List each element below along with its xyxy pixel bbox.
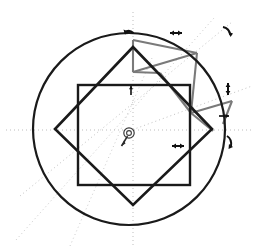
drawing-canvas[interactable] — [0, 0, 256, 250]
arrow-left-head-icon — [170, 31, 174, 36]
arrow-up-head-icon — [226, 83, 231, 87]
gray-segment-top-span[interactable] — [133, 40, 197, 53]
rotate-cw-arrowhead-icon — [229, 32, 234, 37]
arrow-up-head-small-icon — [129, 86, 133, 89]
gray-segment-fan-b[interactable] — [191, 53, 197, 113]
rotation-handle-right-bottom[interactable] — [227, 136, 233, 149]
anchor-inner-dot — [127, 131, 132, 136]
rotation-handle-upper-right[interactable] — [223, 27, 233, 37]
arrow-right-head-mid-icon — [180, 144, 184, 149]
center-anchor-point[interactable] — [122, 128, 135, 146]
diagonal-guide-ne — [20, 22, 232, 196]
arrow-down-head-icon — [226, 91, 231, 95]
arrow-right-head-icon — [178, 31, 182, 36]
resize-handle-right-top[interactable] — [226, 83, 231, 95]
gray-segment-fan-d[interactable] — [191, 101, 232, 113]
move-handle-top-right[interactable] — [170, 31, 182, 36]
move-handle-center-right[interactable] — [172, 144, 184, 149]
vector-artboard[interactable] — [0, 0, 256, 250]
move-handle-square-top[interactable] — [129, 86, 133, 95]
arrow-left-head-mid-icon — [172, 144, 176, 149]
